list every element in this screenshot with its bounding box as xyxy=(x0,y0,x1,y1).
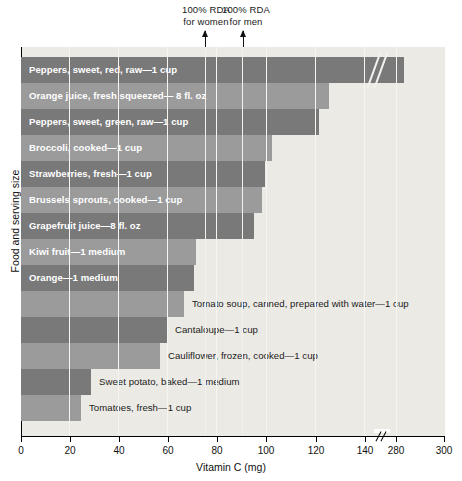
rda-men-label-line2: for men xyxy=(230,16,263,27)
xtick-label-120: 120 xyxy=(301,445,331,456)
bar-label-broccoli: Broccoli, cooked—1 cup xyxy=(29,135,142,161)
xtick-label-300: 300 xyxy=(429,445,459,456)
xtick-120 xyxy=(316,437,317,442)
xtick-label-20: 20 xyxy=(55,445,85,456)
bar-cantaloupe xyxy=(21,317,167,343)
xtick-label-0: 0 xyxy=(6,445,36,456)
xtick-80 xyxy=(217,437,218,442)
bar-label-sweet-potato: Sweet potato, baked—1 medium xyxy=(99,369,240,395)
x-axis-break-icon xyxy=(374,431,390,441)
bar-label-peppers-green: Peppers, sweet, green, raw—1 cup xyxy=(29,109,188,135)
bar-label-brussels-sprouts: Brussels sprouts, cooked—1 cup xyxy=(29,187,182,213)
xtick-0 xyxy=(21,437,22,442)
gridline-120 xyxy=(315,47,316,436)
gridline-280 xyxy=(396,47,397,436)
bar-cauliflower xyxy=(21,343,160,369)
xtick-60 xyxy=(168,437,169,442)
bar-tomato-soup xyxy=(21,291,184,317)
x-axis-title: Vitamin C (mg) xyxy=(0,461,462,473)
bar-label-kiwi-fruit: Kiwi fruit—1 medium xyxy=(29,239,125,265)
rda-women-reference-line xyxy=(205,47,206,436)
bar-label-orange: Orange—1 medium xyxy=(29,265,118,291)
bar-label-tomatoes: Tomatoes, fresh—1 cup xyxy=(89,395,191,421)
plot-area: Peppers, sweet, red, raw—1 cup Orange ju… xyxy=(21,47,445,436)
gridline-140 xyxy=(364,47,365,436)
xtick-label-60: 60 xyxy=(153,445,183,456)
xtick-100 xyxy=(266,437,267,442)
xtick-140 xyxy=(365,437,366,442)
gridline-60 xyxy=(167,47,168,436)
gridline-100 xyxy=(266,47,267,436)
xtick-label-140: 140 xyxy=(350,445,380,456)
bar-tomatoes xyxy=(21,395,81,421)
rda-men-label-line1: 100% RDA xyxy=(222,4,270,15)
bar-label-peppers-red: Peppers, sweet, red, raw—1 cup xyxy=(29,57,177,83)
rda-women-arrow-icon xyxy=(205,31,206,48)
gridline-40 xyxy=(118,47,119,436)
y-axis-title: Food and serving size xyxy=(9,136,21,306)
xtick-20 xyxy=(70,437,71,442)
gridline-20 xyxy=(69,47,70,436)
xtick-label-100: 100 xyxy=(251,445,281,456)
xtick-label-80: 80 xyxy=(202,445,232,456)
rda-men-reference-line xyxy=(242,47,243,436)
xtick-40 xyxy=(119,437,120,442)
gridline-80 xyxy=(216,47,217,436)
rda-men-arrow-icon xyxy=(243,31,244,48)
vitamin-c-bar-chart: 100% RDA for women 100% RDA for men Pepp… xyxy=(0,0,462,481)
rda-men-annotation-label: 100% RDA for men xyxy=(200,4,292,27)
bar-label-strawberries: Strawberries, fresh—1 cup xyxy=(29,161,152,187)
xtick-label-40: 40 xyxy=(104,445,134,456)
bar-label-grapefruit-juice: Grapefruit juice—8 fl. oz xyxy=(29,213,141,239)
xtick-label-280: 280 xyxy=(381,445,411,456)
xtick-280 xyxy=(396,437,397,442)
bar-sweet-potato xyxy=(21,369,91,395)
bar-label-tomato-soup: Tomato soup, canned, prepared with water… xyxy=(192,291,409,317)
xtick-300 xyxy=(444,437,445,442)
